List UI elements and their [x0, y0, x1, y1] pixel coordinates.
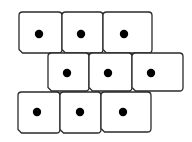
cell — [19, 12, 62, 53]
cell — [48, 53, 89, 91]
cell-tissue-diagram — [0, 0, 192, 142]
nucleus — [104, 69, 112, 77]
middle-row — [48, 53, 183, 91]
cell — [132, 53, 183, 91]
nucleus — [147, 69, 155, 77]
bottom-row — [18, 92, 151, 133]
cell — [103, 12, 152, 53]
cell-rows — [18, 12, 183, 133]
cell — [62, 12, 103, 53]
cell — [89, 53, 132, 91]
cell — [18, 92, 60, 133]
nucleus — [76, 108, 84, 116]
top-row — [19, 12, 152, 53]
nucleus — [77, 30, 85, 38]
cell-wall — [132, 53, 183, 91]
cell — [101, 92, 151, 132]
nucleus — [35, 30, 43, 38]
nucleus — [63, 69, 71, 77]
nucleus — [120, 30, 128, 38]
nucleus — [119, 108, 127, 116]
cell — [60, 92, 101, 133]
nucleus — [33, 108, 41, 116]
